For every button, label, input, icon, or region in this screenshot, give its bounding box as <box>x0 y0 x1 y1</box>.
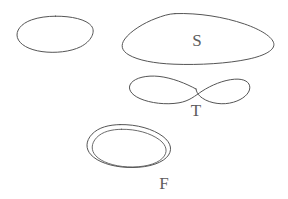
canvas-background <box>0 0 288 199</box>
label-f: F <box>159 174 168 193</box>
hand-drawn-curves-figure: S T F <box>0 0 288 199</box>
label-t: T <box>191 101 202 120</box>
label-s: S <box>192 31 201 50</box>
diagram-canvas: S T F <box>0 0 288 199</box>
